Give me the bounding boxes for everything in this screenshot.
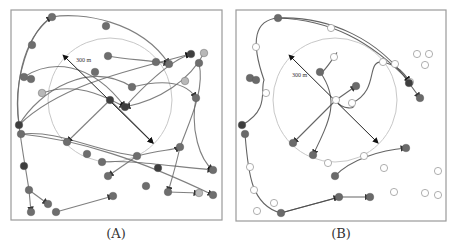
node-marker xyxy=(27,75,35,83)
open-node-marker xyxy=(332,96,339,103)
open-node-marker xyxy=(250,186,257,193)
node-marker xyxy=(104,52,112,60)
node-marker xyxy=(98,158,106,166)
node-marker xyxy=(52,208,60,216)
diameter-label: 300 m xyxy=(292,72,308,78)
open-node-marker xyxy=(434,167,441,174)
panel-a: 300 m xyxy=(11,10,222,220)
node-marker xyxy=(17,130,25,138)
node-marker xyxy=(91,68,99,76)
node-marker xyxy=(38,89,46,97)
node-marker xyxy=(20,162,28,170)
open-node-marker xyxy=(324,159,331,166)
node-marker xyxy=(83,150,91,158)
node-marker xyxy=(104,172,112,180)
node-marker xyxy=(164,188,172,196)
node-marker xyxy=(187,50,195,58)
node-marker xyxy=(152,58,160,66)
diameter-label: 300 m xyxy=(76,57,92,63)
figure-canvas: 300 m 300 m xyxy=(0,0,457,247)
node-marker xyxy=(335,193,343,201)
panel-frame xyxy=(236,10,446,221)
node-marker xyxy=(331,172,339,180)
node-marker xyxy=(121,103,129,111)
node-marker xyxy=(195,189,203,197)
node-marker xyxy=(181,77,189,85)
open-node-marker xyxy=(360,152,367,159)
node-marker xyxy=(15,121,23,129)
node-marker xyxy=(195,59,203,67)
open-node-marker xyxy=(262,89,269,96)
panel-b-caption: (B) xyxy=(311,226,371,241)
node-marker xyxy=(25,186,33,194)
node-marker xyxy=(238,121,246,129)
node-marker xyxy=(200,49,208,57)
open-node-marker xyxy=(379,58,386,65)
node-marker xyxy=(192,94,200,102)
node-marker xyxy=(402,144,410,152)
node-marker xyxy=(102,22,110,30)
node-marker xyxy=(48,13,56,21)
open-node-marker xyxy=(246,163,253,170)
node-marker xyxy=(366,193,374,201)
node-marker xyxy=(352,82,360,90)
panel-b: 300 m xyxy=(236,10,446,221)
node-marker xyxy=(274,14,282,22)
open-node-marker xyxy=(421,61,428,68)
node-marker xyxy=(209,191,217,199)
node-marker xyxy=(416,94,424,102)
node-marker xyxy=(44,200,52,208)
open-node-marker xyxy=(391,60,398,67)
node-marker xyxy=(20,73,28,81)
node-marker xyxy=(316,68,324,76)
node-marker xyxy=(252,76,260,84)
node-marker xyxy=(133,152,141,160)
open-node-marker xyxy=(421,189,428,196)
open-node-marker xyxy=(252,43,259,50)
node-marker xyxy=(106,96,114,104)
open-node-marker xyxy=(270,199,277,206)
node-marker xyxy=(309,151,317,159)
panel-a-caption: (A) xyxy=(86,226,146,241)
node-marker xyxy=(154,164,162,172)
node-marker xyxy=(209,166,217,174)
node-marker xyxy=(28,41,36,49)
node-marker xyxy=(142,182,150,190)
node-marker xyxy=(63,138,71,146)
node-marker xyxy=(405,79,413,87)
node-marker xyxy=(165,60,173,68)
open-node-marker xyxy=(330,53,337,60)
open-node-marker xyxy=(327,24,334,31)
node-marker xyxy=(128,83,136,91)
node-marker xyxy=(27,208,35,216)
node-marker xyxy=(176,143,184,151)
open-node-marker xyxy=(253,207,260,214)
node-marker xyxy=(277,209,285,217)
open-node-marker xyxy=(425,50,432,57)
panel-frame xyxy=(11,10,222,220)
node-marker xyxy=(289,139,297,147)
open-node-marker xyxy=(413,50,420,57)
open-node-marker xyxy=(348,99,355,106)
open-node-marker xyxy=(390,188,397,195)
open-node-marker xyxy=(380,164,387,171)
node-marker xyxy=(109,192,117,200)
open-node-marker xyxy=(434,191,441,198)
node-marker xyxy=(241,130,249,138)
